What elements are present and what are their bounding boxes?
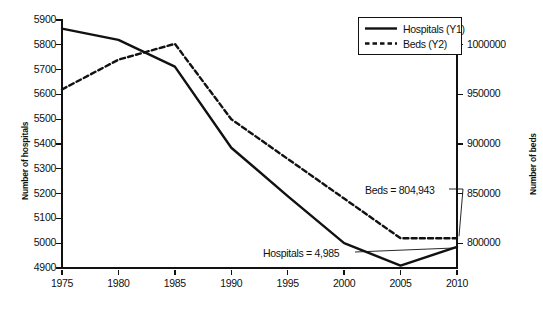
annotation-leader-beds-b (459, 189, 463, 236)
series-line-beds-y2 (62, 44, 457, 238)
legend-swatch-dashed-line (364, 38, 398, 49)
legend-item-beds: Beds (Y2) (364, 36, 456, 51)
legend-label-hospitals: Hospitals (Y1) (403, 23, 465, 35)
legend-item-hospitals: Hospitals (Y1) (364, 21, 456, 36)
chart-container: Number of hospitals Number of beds 49005… (0, 0, 543, 312)
legend-swatch-solid-line (364, 23, 398, 34)
legend-label-beds: Beds (Y2) (403, 38, 447, 50)
annotation-beds-value: Beds = 804,943 (364, 184, 436, 196)
chart-legend: Hospitals (Y1) Beds (Y2) (358, 17, 462, 55)
series-line-hospitals-y1 (62, 29, 457, 266)
annotation-hospitals-value: Hospitals = 4,985 (262, 247, 340, 259)
